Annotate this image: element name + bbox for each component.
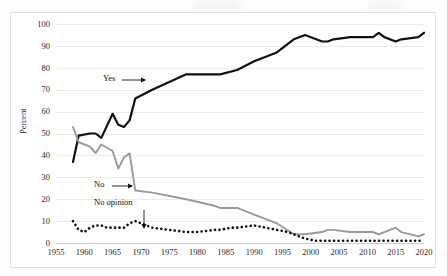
y-tick-label: 0 [22, 239, 50, 248]
gridline [56, 243, 424, 244]
x-tick-label: 1970 [132, 247, 149, 257]
y-tick-label: 20 [22, 195, 50, 204]
annotation-no: No [94, 180, 104, 189]
series-lines [56, 24, 424, 243]
y-tick-label: 40 [22, 151, 50, 160]
x-tick-label: 1985 [217, 247, 234, 257]
x-tick-label: 1965 [104, 247, 121, 257]
x-tick-label: 2005 [331, 247, 348, 257]
annotation-yes: Yes [103, 74, 115, 83]
scan-artifact [196, 2, 240, 9]
figure-container: Percent 0102030405060708090100 195519601… [0, 0, 447, 276]
series-no-opinion [73, 221, 424, 241]
x-tick-label: 2015 [387, 247, 404, 257]
y-tick-label: 80 [22, 64, 50, 73]
y-axis-ticks: 0102030405060708090100 [22, 24, 50, 243]
x-tick-label: 2020 [416, 247, 433, 257]
x-tick-label: 2010 [359, 247, 376, 257]
y-tick-label: 100 [22, 20, 50, 29]
x-axis-ticks: 1955196019651970197519801985199019952000… [56, 247, 424, 261]
x-tick-label: 1960 [76, 247, 93, 257]
y-tick-label: 30 [22, 173, 50, 182]
series-no [73, 127, 424, 236]
plot-area [56, 24, 424, 243]
x-tick-label: 2000 [302, 247, 319, 257]
x-tick-label: 1990 [246, 247, 263, 257]
y-tick-label: 50 [22, 129, 50, 138]
y-tick-label: 60 [22, 107, 50, 116]
annotation-no-opinion: No opinion [94, 198, 133, 207]
y-tick-label: 10 [22, 217, 50, 226]
x-tick-label: 1975 [161, 247, 178, 257]
x-tick-label: 1980 [189, 247, 206, 257]
x-tick-label: 1995 [274, 247, 291, 257]
y-tick-label: 90 [22, 42, 50, 51]
y-tick-label: 70 [22, 85, 50, 94]
scan-artifact [368, 3, 402, 9]
series-yes [73, 33, 424, 162]
x-tick-label: 1955 [48, 247, 65, 257]
